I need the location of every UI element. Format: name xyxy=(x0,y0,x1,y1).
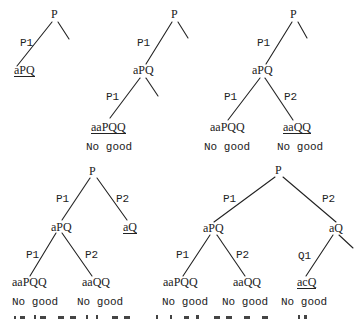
t4-root: P xyxy=(89,165,96,177)
t4-node-aaqq: aaQQ xyxy=(82,276,110,288)
t4-edge-label-p1: P1 xyxy=(56,193,69,205)
t3-edge-label-p2: P2 xyxy=(284,91,297,103)
t5-verdict-2: No good xyxy=(222,296,268,308)
t3-edge-label-p1b: P1 xyxy=(224,91,237,103)
t3-node-aapqq: aaPQQ xyxy=(210,121,245,133)
t1-root: P xyxy=(51,8,58,20)
t3-verdict-1: No good xyxy=(204,141,250,153)
t2-edge-label-p1: P1 xyxy=(137,37,150,49)
t5-verdict-3: No good xyxy=(281,296,327,308)
t5-node-apq: aPQ xyxy=(203,222,224,234)
t5-verdict-1: No good xyxy=(162,296,208,308)
t5-node-aq: aQ xyxy=(329,222,343,234)
t4-edge-label-p2b: P2 xyxy=(85,249,98,261)
edge-t3-stub xyxy=(298,22,307,38)
t1-node-apq: aPQ xyxy=(14,64,35,77)
t2-root: P xyxy=(171,8,178,20)
t3-verdict-2: No good xyxy=(277,141,323,153)
t5-edge-label-p1: P1 xyxy=(223,193,236,205)
t5-root: P xyxy=(275,164,282,176)
clipped-caption-fragment xyxy=(0,312,359,319)
edge-t5-stub xyxy=(339,235,353,248)
t1-edge-label-p1: P1 xyxy=(20,37,33,49)
t3-edge-label-p1: P1 xyxy=(257,37,270,49)
t4-edge-label-p1b: P1 xyxy=(26,249,39,261)
tree-edges xyxy=(0,0,359,319)
edge-t1-stub xyxy=(58,22,69,39)
t4-node-apq: aPQ xyxy=(51,221,72,233)
t4-verdict-1: No good xyxy=(12,296,58,308)
t4-node-aapqq: aaPQQ xyxy=(12,276,47,288)
edge-t2-stub2 xyxy=(146,78,158,96)
t3-node-apq: aPQ xyxy=(252,64,273,76)
t5-node-acq: acQ xyxy=(297,276,316,289)
t5-edge-label-p2: P2 xyxy=(322,193,335,205)
t5-edge-label-q1: Q1 xyxy=(298,250,311,262)
t2-node-aapqq: aaPQQ xyxy=(91,121,126,134)
t5-node-aaqq: aaQQ xyxy=(233,276,261,288)
t5-edge-label-p2b: P2 xyxy=(236,249,249,261)
t4-node-aq: aQ xyxy=(123,221,137,234)
search-tree-figure: P P1 aPQ P P1 aPQ P1 aaPQQ No good P P1 … xyxy=(0,0,359,319)
t5-node-aapqq: aaPQQ xyxy=(163,276,198,288)
t2-edge-label-p1b: P1 xyxy=(106,91,119,103)
t3-node-aaqq: aaQQ xyxy=(283,121,311,134)
t2-verdict: No good xyxy=(86,141,132,153)
t2-node-apq: aPQ xyxy=(133,64,154,76)
t4-verdict-2: No good xyxy=(77,296,123,308)
t5-edge-label-p1b: P1 xyxy=(176,249,189,261)
t3-root: P xyxy=(290,8,297,20)
t4-edge-label-p2: P2 xyxy=(116,193,129,205)
edge-t2-stub xyxy=(178,22,188,38)
